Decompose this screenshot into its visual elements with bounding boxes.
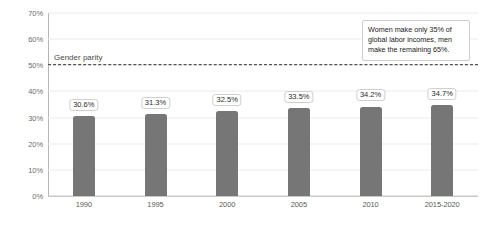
bar[interactable] [431,105,453,196]
y-tick-label: 40% [28,87,43,96]
x-tick-label-2005: 2005 [263,200,335,209]
bar[interactable] [73,116,95,196]
y-tick-label: 0% [32,192,43,201]
y-tick-label: 10% [28,165,43,174]
x-tick-label-2015-2020: 2015-2020 [406,200,478,209]
y-tick-label: 30% [28,113,43,122]
bar-value-label: 32.5% [213,94,242,106]
x-tick-label-2010: 2010 [335,200,407,209]
bar[interactable] [360,107,382,196]
bar[interactable] [216,111,238,196]
bar-value-label: 31.3% [141,97,170,109]
bar-chart: 70% 60% 50% 40% 30% 20% 10% 0% [0,0,484,227]
x-tick-label-1990: 1990 [48,200,120,209]
bar-group-2000: 32.5% [191,13,263,196]
gender-parity-label: Gender parity [54,53,102,62]
x-tick-label-2000: 2000 [191,200,263,209]
gender-parity-dashed-line [48,64,478,65]
bar[interactable] [145,114,167,196]
x-axis-labels: 1990 1995 2000 2005 2010 2015-2020 [48,200,478,209]
bar-value-label: 34.2% [356,89,385,101]
bar-value-label: 34.7% [428,88,457,100]
y-tick-label: 70% [28,9,43,18]
x-tick-label-1995: 1995 [120,200,192,209]
bar-group-1990: 30.6% [48,13,120,196]
bar[interactable] [288,108,310,196]
annotation-callout: Women make only 35% of global labor inco… [362,20,470,61]
bar-value-label: 33.5% [284,91,313,103]
bar-group-2005: 33.5% [263,13,335,196]
bar-value-label: 30.6% [69,99,98,111]
x-axis-line [48,196,478,197]
y-tick-label: 50% [28,61,43,70]
y-tick-label: 20% [28,139,43,148]
y-tick-label: 60% [28,35,43,44]
bar-group-1995: 31.3% [120,13,192,196]
